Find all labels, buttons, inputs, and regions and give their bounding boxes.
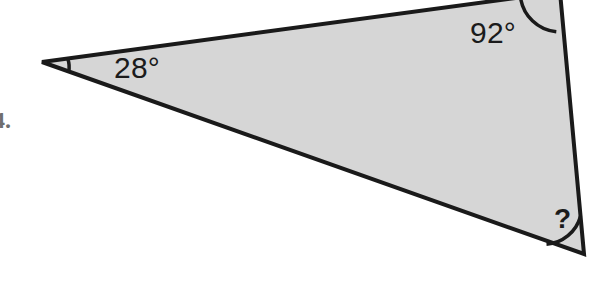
angle-label-unknown: ? (554, 205, 571, 233)
figure-page: 4. 28° 92° ? (0, 0, 596, 283)
item-number: 4. (0, 107, 11, 134)
angle-label-top-right: 92° (470, 18, 516, 48)
arc-left-vertex (68, 59, 69, 73)
angle-label-left: 28° (114, 53, 160, 83)
